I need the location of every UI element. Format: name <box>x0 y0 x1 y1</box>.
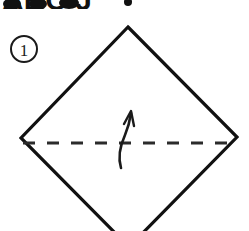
origami-step-diagram: ABC J 1 <box>0 0 249 231</box>
step-number-label: 1 <box>20 41 29 60</box>
diagram-canvas: ABC J 1 <box>0 0 249 231</box>
paper-square-diamond <box>21 27 237 231</box>
cropped-top-text: ABC J <box>2 0 132 16</box>
step-number-badge: 1 <box>11 36 37 62</box>
text-fragment-glyph <box>124 0 132 6</box>
